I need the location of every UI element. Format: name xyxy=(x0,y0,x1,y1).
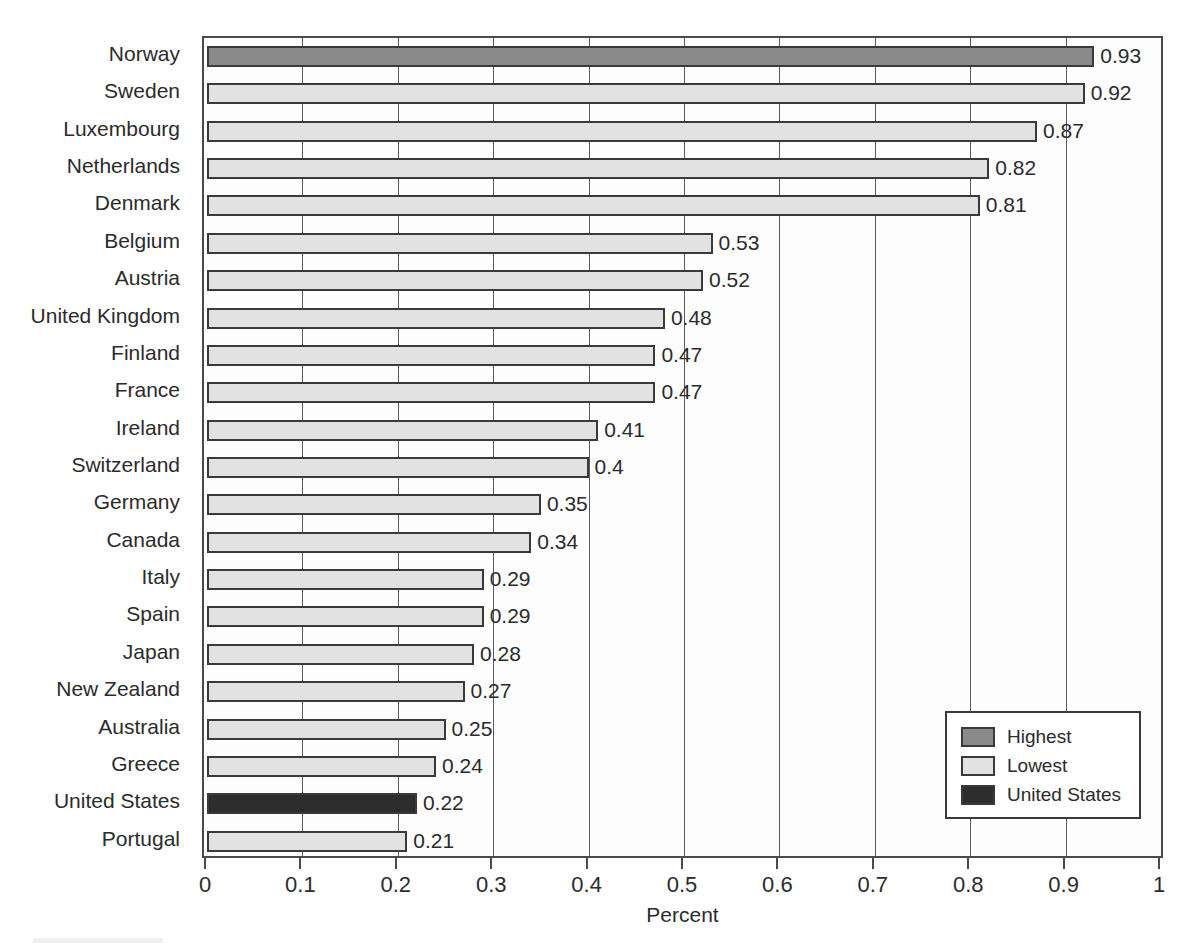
bar-canada[interactable] xyxy=(207,532,531,553)
bar-switzerland[interactable] xyxy=(207,457,589,478)
bar-row[interactable]: 0.47 xyxy=(204,337,1161,374)
x-tick xyxy=(681,858,683,869)
legend-label: Highest xyxy=(1007,726,1071,748)
x-tick-label: 0 xyxy=(199,872,211,898)
bar-value-label: 0.48 xyxy=(671,306,712,330)
bar-row[interactable]: 0.82 xyxy=(204,150,1161,187)
category-label-italy: Italy xyxy=(141,565,180,589)
bar-germany[interactable] xyxy=(207,494,541,515)
bar-row[interactable]: 0.47 xyxy=(204,374,1161,411)
bar-row[interactable]: 0.29 xyxy=(204,598,1161,635)
x-tick-label: 0.6 xyxy=(762,872,793,898)
bar-italy[interactable] xyxy=(207,569,484,590)
bar-row[interactable]: 0.92 xyxy=(204,75,1161,112)
bar-row[interactable]: 0.29 xyxy=(204,561,1161,598)
bar-value-label: 0.4 xyxy=(595,455,624,479)
bar-value-label: 0.52 xyxy=(709,268,750,292)
x-tick-label: 0.7 xyxy=(858,872,889,898)
bar-value-label: 0.22 xyxy=(423,791,464,815)
bar-value-label: 0.87 xyxy=(1043,119,1084,143)
bar-sweden[interactable] xyxy=(207,83,1085,104)
bar-row[interactable]: 0.52 xyxy=(204,262,1161,299)
bar-value-label: 0.35 xyxy=(547,492,588,516)
bar-row[interactable]: 0.48 xyxy=(204,300,1161,337)
bar-norway[interactable] xyxy=(207,46,1094,67)
category-label-new-zealand: New Zealand xyxy=(56,677,180,701)
x-tick-label: 0.9 xyxy=(1048,872,1079,898)
category-label-spain: Spain xyxy=(126,602,180,626)
category-label-greece: Greece xyxy=(111,752,180,776)
x-tick-label: 0.5 xyxy=(667,872,698,898)
bar-row[interactable]: 0.93 xyxy=(204,38,1161,75)
legend-swatch-highest xyxy=(961,727,995,747)
category-label-france: France xyxy=(115,378,180,402)
scan-artifact xyxy=(33,938,163,943)
x-tick-label: 0.4 xyxy=(571,872,602,898)
category-label-germany: Germany xyxy=(94,490,180,514)
bar-new-zealand[interactable] xyxy=(207,681,465,702)
x-tick-label: 0.2 xyxy=(381,872,412,898)
bar-luxembourg[interactable] xyxy=(207,121,1037,142)
category-label-luxembourg: Luxembourg xyxy=(63,117,180,141)
bar-value-label: 0.47 xyxy=(661,380,702,404)
x-tick-label: 0.3 xyxy=(476,872,507,898)
bar-row[interactable]: 0.27 xyxy=(204,673,1161,710)
bar-spain[interactable] xyxy=(207,606,484,627)
category-label-united-kingdom: United Kingdom xyxy=(31,304,180,328)
bar-row[interactable]: 0.87 xyxy=(204,113,1161,150)
bar-row[interactable]: 0.35 xyxy=(204,486,1161,523)
x-tick xyxy=(586,858,588,869)
bar-united-states[interactable] xyxy=(207,793,417,814)
bar-value-label: 0.27 xyxy=(471,679,512,703)
bar-denmark[interactable] xyxy=(207,195,980,216)
bar-belgium[interactable] xyxy=(207,233,713,254)
bar-value-label: 0.92 xyxy=(1091,81,1132,105)
legend-label: United States xyxy=(1007,784,1121,806)
bar-row[interactable]: 0.41 xyxy=(204,412,1161,449)
bar-row[interactable]: 0.4 xyxy=(204,449,1161,486)
bar-ireland[interactable] xyxy=(207,420,598,441)
bar-portugal[interactable] xyxy=(207,831,407,852)
bar-row[interactable]: 0.81 xyxy=(204,187,1161,224)
legend-item-highest[interactable]: Highest xyxy=(961,723,1139,751)
bar-row[interactable]: 0.34 xyxy=(204,524,1161,561)
x-tick xyxy=(1158,858,1160,869)
x-tick-label: 0.1 xyxy=(285,872,316,898)
bar-netherlands[interactable] xyxy=(207,158,989,179)
bar-value-label: 0.29 xyxy=(490,567,531,591)
bar-row[interactable]: 0.53 xyxy=(204,225,1161,262)
category-label-japan: Japan xyxy=(123,640,180,664)
bar-row[interactable]: 0.21 xyxy=(204,823,1161,860)
bar-finland[interactable] xyxy=(207,345,655,366)
category-label-belgium: Belgium xyxy=(104,229,180,253)
x-tick xyxy=(967,858,969,869)
category-label-sweden: Sweden xyxy=(104,79,180,103)
bar-greece[interactable] xyxy=(207,756,436,777)
category-label-switzerland: Switzerland xyxy=(71,453,180,477)
category-label-austria: Austria xyxy=(115,266,180,290)
category-label-denmark: Denmark xyxy=(95,191,180,215)
legend-item-lowest[interactable]: Lowest xyxy=(961,752,1139,780)
bar-united-kingdom[interactable] xyxy=(207,308,665,329)
x-tick-label: 0.8 xyxy=(953,872,984,898)
bar-chart-figure: NorwaySwedenLuxembourgNetherlandsDenmark… xyxy=(0,0,1191,946)
bar-value-label: 0.29 xyxy=(490,604,531,628)
category-label-ireland: Ireland xyxy=(116,416,180,440)
category-label-netherlands: Netherlands xyxy=(67,154,180,178)
bar-japan[interactable] xyxy=(207,644,474,665)
legend-swatch-united-states xyxy=(961,785,995,805)
bar-france[interactable] xyxy=(207,382,655,403)
bar-value-label: 0.25 xyxy=(452,717,493,741)
category-label-portugal: Portugal xyxy=(102,827,180,851)
x-axis-title: Percent xyxy=(202,902,1163,927)
category-label-canada: Canada xyxy=(106,528,180,552)
bar-austria[interactable] xyxy=(207,270,703,291)
bar-value-label: 0.28 xyxy=(480,642,521,666)
bar-row[interactable]: 0.28 xyxy=(204,636,1161,673)
bar-value-label: 0.21 xyxy=(413,829,454,853)
legend-item-united-states[interactable]: United States xyxy=(961,781,1139,809)
bar-australia[interactable] xyxy=(207,719,446,740)
x-tick xyxy=(299,858,301,869)
bar-value-label: 0.24 xyxy=(442,754,483,778)
bar-value-label: 0.34 xyxy=(537,530,578,554)
